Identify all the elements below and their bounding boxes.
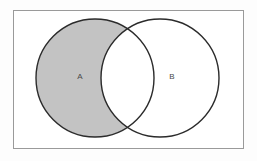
- venn-diagram-figure: A B: [0, 0, 257, 161]
- venn-diagram-canvas: A B: [0, 0, 257, 161]
- set-label-b: B: [169, 72, 175, 81]
- set-label-a: A: [77, 72, 83, 81]
